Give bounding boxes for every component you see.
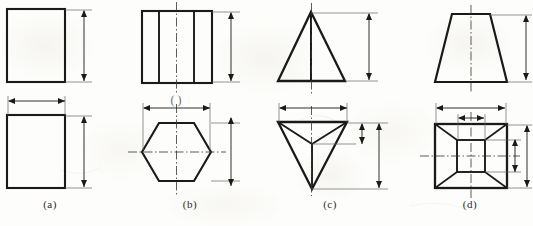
panel-b-group: ( ): [128, 2, 240, 196]
panel-d-group: [420, 5, 532, 198]
panel-b-front-view-rectangle: [142, 11, 212, 83]
panel-b-annotation-mark: ( ): [171, 93, 182, 107]
panel-a-top-view-rectangle: [7, 115, 65, 188]
orthographic-views-canvas: ( ): [0, 0, 533, 226]
technical-drawing-figure: ( ): [0, 0, 533, 226]
panel-a-group: [7, 9, 92, 188]
panel-c-group: [278, 3, 388, 196]
panel-d-top-diagonal-bottom-left: [435, 172, 457, 188]
panel-d-top-diagonal-bottom-right: [485, 172, 507, 188]
panel-d-top-diagonal-top-left: [435, 124, 457, 140]
panel-a-front-view-rectangle: [7, 9, 65, 82]
panel-d-top-diagonal-top-right: [485, 124, 507, 140]
